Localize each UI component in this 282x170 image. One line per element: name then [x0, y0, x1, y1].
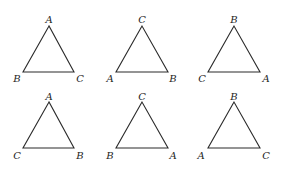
- triangle-t4: A C B: [13, 91, 84, 161]
- vertex-label-top: B: [229, 14, 237, 25]
- vertex-label-left: C: [198, 73, 206, 84]
- vertex-label-right: B: [75, 150, 83, 161]
- vertex-label-right: A: [168, 150, 176, 161]
- triangle-shape: [116, 102, 168, 148]
- vertex-label-right: C: [76, 73, 84, 84]
- vertex-label-left: C: [13, 150, 21, 161]
- vertex-label-left: B: [12, 73, 20, 84]
- vertex-label-right: A: [261, 73, 269, 84]
- triangle-shape: [116, 26, 168, 72]
- vertex-label-left: B: [105, 150, 113, 161]
- triangle-shape: [23, 26, 74, 72]
- vertex-label-top: C: [138, 91, 146, 102]
- triangle-t5: C B A: [105, 91, 176, 161]
- vertex-label-top: B: [229, 91, 237, 102]
- vertex-label-top: A: [44, 91, 52, 102]
- triangle-t1: A B C: [12, 14, 84, 84]
- triangle-shape: [208, 102, 260, 148]
- triangle-t3: B C A: [198, 14, 269, 84]
- vertex-label-left: A: [196, 150, 204, 161]
- vertex-label-right: C: [262, 150, 270, 161]
- vertex-label-right: B: [168, 73, 176, 84]
- triangle-t6: B A C: [196, 91, 270, 161]
- vertex-label-top: A: [44, 14, 52, 25]
- triangle-t2: C A B: [105, 14, 176, 84]
- triangle-permutations-diagram: A B C C A B B C A A C B C B A B A C: [0, 0, 282, 170]
- vertex-label-top: C: [138, 14, 146, 25]
- triangle-shape: [23, 102, 74, 148]
- vertex-label-left: A: [105, 73, 113, 84]
- triangle-shape: [208, 26, 260, 72]
